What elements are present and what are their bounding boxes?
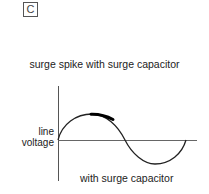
y-axis-label-line1: line xyxy=(14,126,54,137)
y-axis-label-line2: voltage xyxy=(14,137,54,148)
diagram-caption: with surge capacitor xyxy=(80,172,173,184)
surge-spike-segment xyxy=(91,114,113,119)
sine-wave xyxy=(58,114,186,164)
waveform-plot xyxy=(0,0,209,194)
y-axis-label: line voltage xyxy=(14,126,54,148)
